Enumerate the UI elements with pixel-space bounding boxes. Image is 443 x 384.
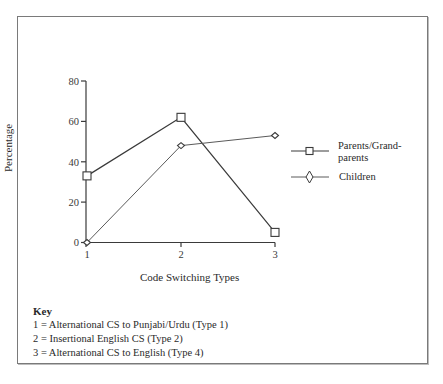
x-axis-label: Code Switching Types — [140, 271, 239, 283]
series-parents-markers — [83, 113, 279, 236]
legend-label-children: Children — [339, 171, 376, 183]
y-tick-40: 40 — [69, 157, 80, 168]
y-tick-80: 80 — [69, 76, 80, 87]
key-title: Key — [33, 304, 228, 318]
legend-item-children — [291, 171, 329, 183]
series-children-line — [87, 136, 275, 243]
key-section: Key 1 = Alternational CS to Punjabi/Urdu… — [33, 304, 228, 360]
key-item-2: 2 = Insertional English CS (Type 2) — [33, 332, 228, 346]
x-axis — [86, 243, 275, 248]
legend-label-parents-line1: Parents/Grand- — [338, 140, 402, 152]
legend-label-parents-line2: parents — [338, 152, 402, 164]
series-parents-line — [87, 117, 275, 232]
square-marker-icon — [83, 172, 91, 180]
y-tick-60: 60 — [69, 116, 80, 127]
key-item-1: 1 = Alternational CS to Punjabi/Urdu (Ty… — [33, 318, 228, 332]
y-tick-20: 20 — [69, 197, 80, 208]
square-marker-icon — [271, 228, 279, 236]
series-children-markers — [84, 133, 279, 246]
square-marker-icon — [177, 113, 185, 121]
key-item-3: 3 = Alternational CS to English (Type 4) — [33, 346, 228, 360]
diamond-marker-icon — [272, 133, 279, 139]
diamond-marker-icon — [306, 171, 313, 183]
x-tick-2: 2 — [178, 249, 183, 260]
y-tick-0: 0 — [74, 237, 79, 248]
y-axis — [81, 81, 86, 243]
legend — [291, 148, 329, 184]
legend-label-parents: Parents/Grand- parents — [338, 140, 402, 164]
y-axis-label: Percentage — [2, 124, 14, 172]
x-tick-1: 1 — [84, 249, 89, 260]
x-tick-3: 3 — [272, 249, 277, 260]
square-marker-icon — [306, 148, 313, 155]
legend-item-parents — [291, 148, 329, 155]
